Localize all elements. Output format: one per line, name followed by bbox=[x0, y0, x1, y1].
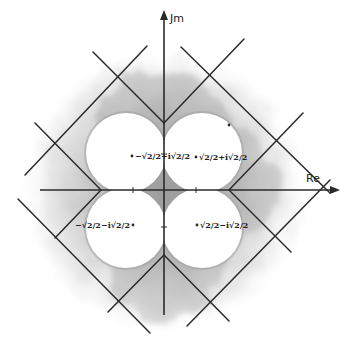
point-tr-label: √2/2+i√2/2 bbox=[199, 152, 247, 162]
point-bl-label: −√2/2−i√2/2 bbox=[75, 220, 130, 230]
point-stray-dot bbox=[228, 124, 231, 127]
imag-axis-label: Jm bbox=[169, 12, 184, 25]
point-tl-label: −√2/2+i√2/2 bbox=[135, 151, 190, 161]
real-axis-arrow-icon bbox=[330, 186, 340, 194]
point-tr-dot bbox=[195, 156, 198, 159]
real-axis-label: Re bbox=[306, 172, 320, 185]
point-bl-dot bbox=[132, 224, 135, 227]
point-tl-dot bbox=[131, 155, 134, 158]
point-br-label: √2/2−i√2/2 bbox=[200, 220, 248, 230]
point-br-dot bbox=[196, 224, 199, 227]
imag-axis-arrow-icon bbox=[160, 10, 168, 20]
complex-plane-diagram: ReJm −√2/2+i√2/2√2/2+i√2/2−√2/2−i√2/2√2/… bbox=[0, 0, 363, 348]
